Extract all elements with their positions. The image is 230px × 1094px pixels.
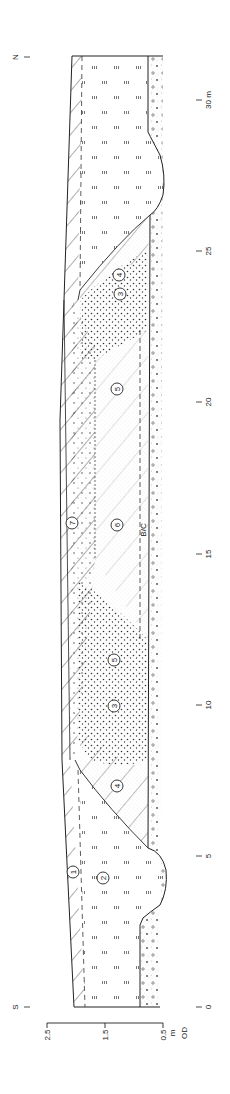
north-marker: N — [11, 54, 31, 60]
layer-label-3-north: 3 — [114, 288, 126, 300]
svg-text:5: 5 — [110, 657, 119, 662]
svg-text:20: 20 — [204, 397, 213, 406]
svg-text:2: 2 — [99, 875, 108, 880]
distance-tick-25: 25 — [196, 246, 213, 255]
south-marker: S — [11, 1004, 31, 1009]
svg-text:1.5: 1.5 — [101, 1029, 110, 1041]
layer-label-4-south: 4 — [111, 780, 123, 792]
svg-text:1: 1 — [69, 869, 78, 874]
distance-tick-5: 5 — [196, 853, 213, 858]
svg-text:3: 3 — [110, 703, 119, 708]
svg-text:4: 4 — [113, 783, 122, 788]
height-scale: 2.5 1.5 0.5 m OD — [43, 1023, 189, 1041]
layer-label-3-south: 3 — [108, 700, 120, 712]
svg-text:2.5: 2.5 — [43, 1029, 52, 1041]
svg-text:25: 25 — [204, 246, 213, 255]
distance-tick-30: 30 m — [196, 91, 213, 109]
svg-text:4: 4 — [115, 272, 124, 277]
distance-tick-10: 10 — [196, 700, 213, 709]
svg-text:6: 6 — [113, 522, 122, 527]
svg-text:30 m: 30 m — [204, 91, 213, 109]
svg-text:m: m — [168, 1029, 177, 1036]
layer-label-5-north: 5 — [111, 383, 123, 395]
svg-text:5: 5 — [204, 853, 213, 858]
svg-text:10: 10 — [204, 700, 213, 709]
svg-text:5: 5 — [113, 386, 122, 391]
svg-text:15: 15 — [204, 549, 213, 558]
layer-label-1: 1 — [67, 866, 79, 878]
section-drawing: 1 2 3 4 5 6 7 3 — [0, 0, 230, 1094]
bc-label: B/C — [139, 523, 148, 537]
svg-text:S: S — [11, 1004, 20, 1009]
layer-label-4-north: 4 — [113, 269, 125, 281]
distance-tick-0: 0 — [196, 1004, 213, 1009]
layer-label-6: 6 — [111, 519, 123, 531]
svg-text:0: 0 — [204, 1004, 213, 1009]
distance-tick-15: 15 — [196, 549, 213, 558]
svg-text:OD: OD — [180, 1027, 189, 1039]
distance-tick-20: 20 — [196, 397, 213, 406]
svg-text:N: N — [11, 54, 20, 60]
layer-label-2: 2 — [97, 872, 109, 884]
svg-text:7: 7 — [68, 520, 77, 525]
layer-label-5-south: 5 — [108, 654, 120, 666]
layer-label-7: 7 — [66, 517, 78, 529]
distance-scale: 0 5 10 15 20 25 30 m — [196, 91, 213, 1009]
svg-text:0.5: 0.5 — [159, 1029, 168, 1041]
svg-text:3: 3 — [116, 291, 125, 296]
